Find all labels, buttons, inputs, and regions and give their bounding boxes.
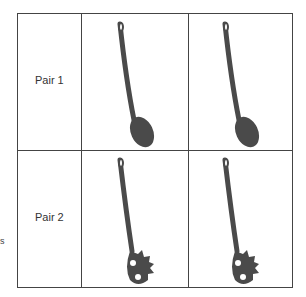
- clipped-text-fragment: s: [0, 236, 5, 246]
- row-divider: [18, 150, 292, 151]
- comparison-table: Pair 1 Pair 2: [17, 13, 293, 288]
- pasta-server-icon: [108, 156, 168, 286]
- solid-spoon-icon: [108, 20, 168, 150]
- solid-spoon-icon: [213, 20, 273, 150]
- row-label-pair-1: Pair 1: [35, 74, 64, 86]
- pasta-server-icon: [213, 156, 273, 286]
- row-label-pair-2: Pair 2: [35, 211, 64, 223]
